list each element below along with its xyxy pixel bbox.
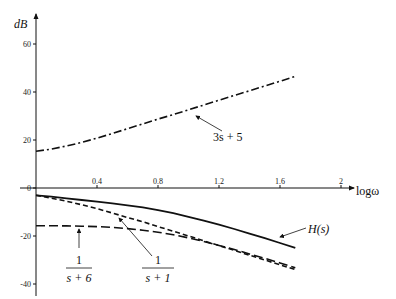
x-tick-label: 1.2 bbox=[214, 177, 224, 186]
x-tick-label: 0.8 bbox=[153, 177, 163, 186]
x-tick-label: 0.4 bbox=[92, 177, 102, 186]
y-tick-label: 60 bbox=[23, 40, 31, 49]
arrow-H bbox=[280, 228, 306, 237]
label-H: H(s) bbox=[307, 222, 329, 236]
axes: 6040200-20-400.40.81.21.62 bbox=[20, 14, 354, 296]
series-3s-5 bbox=[36, 76, 295, 151]
y-tick-label: 20 bbox=[23, 136, 31, 145]
bode-magnitude-chart: 6040200-20-400.40.81.21.62 dB logω 3s + … bbox=[0, 0, 396, 299]
label-s6-num: 1 bbox=[76, 253, 82, 267]
label-s1-den: s + 1 bbox=[146, 271, 171, 285]
arrow-3s5 bbox=[196, 116, 222, 131]
y-axis-label: dB bbox=[14, 17, 28, 31]
x-tick-label: 1.6 bbox=[275, 177, 285, 186]
x-tick-label: 2 bbox=[339, 177, 343, 186]
series-1-s-6- bbox=[36, 226, 295, 268]
curves bbox=[36, 76, 295, 269]
label-s6-den: s + 6 bbox=[67, 271, 92, 285]
annotations: dB logω 3s + 5 H(s) 1 s + 1 1 s + 6 bbox=[14, 17, 379, 285]
y-tick-label: 40 bbox=[23, 88, 31, 97]
y-tick-label: 0 bbox=[27, 184, 31, 193]
series-1-s-1- bbox=[36, 195, 295, 269]
y-tick-label: -20 bbox=[20, 232, 31, 241]
y-tick-label: -40 bbox=[20, 280, 31, 289]
series-h-s- bbox=[36, 195, 295, 247]
label-s1-num: 1 bbox=[155, 253, 161, 267]
x-axis-label: logω bbox=[356, 184, 379, 198]
label-3s5: 3s + 5 bbox=[213, 130, 242, 144]
